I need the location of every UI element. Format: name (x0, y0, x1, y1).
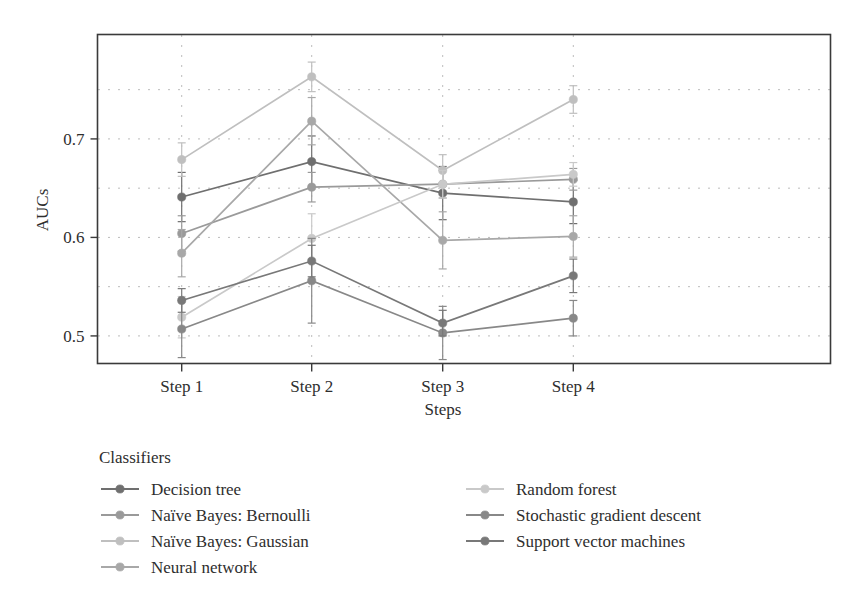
legend-title: Classifiers (99, 448, 171, 467)
figure-background (0, 0, 851, 595)
data-point (569, 198, 577, 206)
y-tick-label: 0.7 (63, 130, 85, 149)
x-tick-label: Step 4 (552, 377, 595, 396)
y-axis-title: AUCs (33, 189, 52, 232)
data-point (178, 325, 186, 333)
y-tick-label: 0.5 (63, 327, 84, 346)
legend-item-label: Stochastic gradient descent (516, 506, 701, 525)
data-point (569, 272, 577, 280)
legend-item-label: Neural network (151, 558, 258, 577)
data-point (569, 314, 577, 322)
legend-marker-icon (116, 563, 124, 571)
data-point (308, 183, 316, 191)
data-point (178, 296, 186, 304)
data-point (178, 155, 186, 163)
data-point (569, 95, 577, 103)
auc-line-chart: 0.50.60.7 Step 1Step 2Step 3Step 4 AUCs … (0, 0, 851, 595)
legend-marker-icon (481, 511, 489, 519)
data-point (178, 249, 186, 257)
data-point (308, 277, 316, 285)
x-tick-label: Step 1 (160, 377, 203, 396)
x-axis-title: Steps (425, 400, 462, 419)
data-point (308, 157, 316, 165)
legend-item-label: Support vector machines (516, 532, 685, 551)
legend-item-label: Random forest (516, 480, 617, 499)
x-tick-label: Step 3 (421, 377, 464, 396)
data-point (178, 193, 186, 201)
legend-item-label: Naïve Bayes: Bernoulli (151, 506, 311, 525)
data-point (308, 117, 316, 125)
x-tick-label: Step 2 (290, 377, 333, 396)
data-point (308, 73, 316, 81)
legend-marker-icon (116, 511, 124, 519)
data-point (439, 180, 447, 188)
legend-marker-icon (481, 485, 489, 493)
data-point (308, 257, 316, 265)
legend-marker-icon (116, 485, 124, 493)
legend-marker-icon (116, 537, 124, 545)
data-point (439, 236, 447, 244)
legend-item-label: Naïve Bayes: Gaussian (151, 532, 309, 551)
legend-marker-icon (481, 537, 489, 545)
y-tick-label: 0.6 (63, 228, 84, 247)
data-point (569, 170, 577, 178)
legend-item-label: Decision tree (151, 480, 241, 499)
data-point (439, 319, 447, 327)
chart-figure: 0.50.60.7 Step 1Step 2Step 3Step 4 AUCs … (0, 0, 851, 595)
data-point (569, 232, 577, 240)
